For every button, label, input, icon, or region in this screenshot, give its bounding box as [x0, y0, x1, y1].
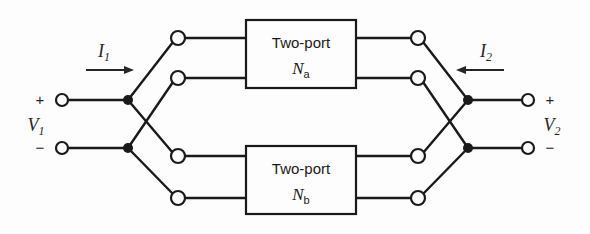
- terminal-na-in-top: [171, 31, 185, 45]
- terminal-nb-in-bottom: [171, 191, 185, 205]
- wire-right-top-to-nb-top: [423, 100, 468, 153]
- terminal-nb-out-bottom: [411, 191, 425, 205]
- terminal-left-minus: [56, 142, 68, 154]
- left-plus-sign: +: [36, 91, 45, 108]
- network-a-title: Two-port: [272, 34, 331, 51]
- left-current-arrow-icon: [86, 66, 134, 74]
- network-b-subscript: b: [304, 194, 310, 206]
- left-voltage-label-group: V1: [28, 115, 45, 138]
- right-voltage-label-group: V2: [544, 115, 561, 138]
- right-minus-sign: −: [546, 139, 555, 156]
- circuit-diagram-figure: Two-port Na Two-port Nb + − V: [0, 0, 590, 234]
- right-plus-sign: +: [546, 91, 555, 108]
- right-current-arrow-icon: [456, 66, 504, 74]
- terminal-left-plus: [56, 94, 68, 106]
- terminal-right-plus: [522, 94, 534, 106]
- diagram-svg: Two-port Na Two-port Nb + − V: [0, 0, 590, 234]
- junction-right-top: [463, 95, 473, 105]
- terminal-na-out-top: [411, 31, 425, 45]
- terminal-nb-in-top: [171, 149, 185, 163]
- junction-left-top: [123, 95, 133, 105]
- terminal-nb-out-top: [411, 149, 425, 163]
- junction-left-bottom: [123, 143, 133, 153]
- right-current-label-group: I2: [479, 41, 492, 64]
- left-current-label-group: I1: [97, 41, 110, 64]
- terminal-na-in-bottom: [171, 71, 185, 85]
- left-voltage-subscript: 1: [39, 124, 45, 138]
- junction-right-bottom: [463, 143, 473, 153]
- wire-right-bot-to-nb-bot: [423, 148, 468, 194]
- right-voltage-subscript: 2: [555, 124, 561, 138]
- left-minus-sign: −: [36, 139, 45, 156]
- network-a-subscript: a: [304, 68, 311, 80]
- network-b-title: Two-port: [272, 160, 331, 177]
- left-current-subscript: 1: [104, 50, 110, 64]
- terminal-na-out-bottom: [411, 71, 425, 85]
- wire-left-bot-to-nb-bot: [128, 148, 173, 194]
- terminal-right-minus: [522, 142, 534, 154]
- right-current-subscript: 2: [486, 50, 492, 64]
- wire-left-top-to-nb-top: [128, 100, 173, 153]
